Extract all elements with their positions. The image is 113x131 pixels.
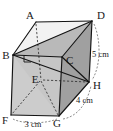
vertex-label-H: H <box>93 79 101 91</box>
vertex-label-G: G <box>53 117 61 129</box>
dimension-label-width: 3 cm <box>25 119 42 129</box>
vertex-label-A: A <box>26 9 34 21</box>
dimension-label-height: 5 cm <box>92 49 109 59</box>
vertex-label-B: B <box>2 49 9 61</box>
vertex-label-D: D <box>97 9 105 21</box>
geometry-figure: A B C D E F G H 5 cm 4 cm 3 cm <box>0 0 113 131</box>
vertex-label-C: C <box>66 54 73 66</box>
dimension-label-depth: 4 cm <box>76 95 93 105</box>
vertex-label-E: E <box>32 73 39 85</box>
vertex-label-F: F <box>2 114 8 126</box>
cuboid-prism-svg: A B C D E F G H 5 cm 4 cm 3 cm <box>0 0 113 131</box>
